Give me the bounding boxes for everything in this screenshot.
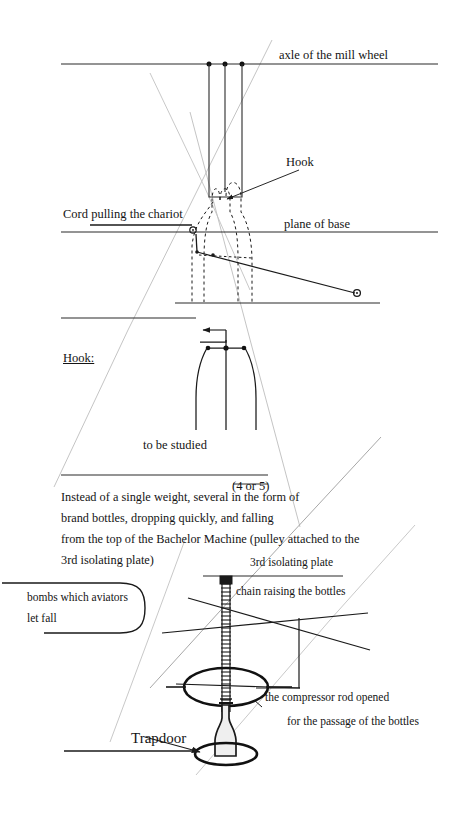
body-line-2: brand bottles, dropping quickly, and fal… — [61, 508, 274, 529]
label-compressor-line-2: for the passage of the bottles — [287, 714, 419, 728]
cord-pulling-chariot-line — [90, 225, 197, 252]
label-compressor-line-1: the compressor rod opened — [265, 690, 389, 704]
body-line-4: 3rd isolating plate) — [61, 550, 154, 571]
label-plane-of-base: plane of base — [284, 217, 350, 233]
short-dotted-connector — [199, 255, 252, 258]
sketch-artboard — [0, 0, 468, 834]
dotted-bottles — [192, 183, 252, 303]
stray-pencil-lines — [110, 73, 415, 775]
label-axle-of-mill-wheel: axle of the mill wheel — [279, 48, 388, 64]
body-line-3: from the top of the Bachelor Machine (pu… — [61, 529, 359, 550]
sloping-cord — [195, 250, 360, 296]
label-cord-pulling-chariot: Cord pulling the chariot — [63, 207, 183, 223]
label-trapdoor: Trapdoor — [131, 729, 186, 748]
falling-bottle — [215, 699, 236, 756]
label-chain-raising-bottles: chain raising the bottles — [236, 584, 346, 598]
hook-detail-flask — [196, 330, 256, 430]
label-hook-callout: Hook — [286, 155, 314, 171]
sketch-page: axle of the mill wheel Hook Cord pulling… — [0, 0, 468, 834]
label-bombs-line-1: bombs which aviators — [27, 590, 128, 604]
chain-ladder — [220, 576, 232, 712]
perspective-cone — [54, 40, 300, 527]
body-line-1: Instead of a single weight, several in t… — [61, 487, 299, 508]
label-to-be-studied: to be studied — [143, 438, 207, 454]
label-hook-detail-title: Hook: — [63, 351, 94, 367]
chariot-rectangle — [209, 64, 242, 197]
label-third-isolating-plate: 3rd isolating plate — [250, 555, 333, 569]
hook-callout-leader — [227, 170, 299, 199]
label-bombs-line-2: let fall — [27, 611, 57, 625]
